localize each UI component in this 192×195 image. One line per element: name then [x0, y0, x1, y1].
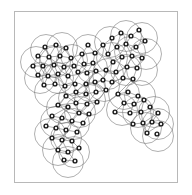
- network-node: [121, 100, 126, 105]
- network-node: [103, 67, 108, 72]
- network-node: [65, 104, 70, 109]
- network-node: [149, 119, 154, 124]
- network-node: [94, 99, 99, 104]
- network-node: [65, 73, 70, 78]
- network-node: [109, 35, 114, 40]
- network-node: [42, 44, 47, 49]
- network-node: [71, 63, 76, 68]
- network-node: [83, 91, 88, 96]
- network-node: [53, 42, 58, 47]
- network-node: [134, 65, 139, 70]
- network-node: [128, 33, 133, 38]
- network-node: [45, 73, 50, 78]
- network-node: [43, 123, 48, 128]
- network-node: [144, 130, 149, 135]
- network-diagram: [0, 0, 192, 195]
- network-node: [100, 42, 105, 47]
- network-node: [131, 101, 136, 106]
- network-node: [129, 53, 134, 58]
- network-node: [75, 69, 80, 74]
- network-node: [86, 111, 91, 116]
- network-node: [93, 89, 98, 94]
- network-node: [90, 60, 95, 65]
- network-node: [51, 62, 56, 67]
- network-node: [68, 55, 73, 60]
- network-node: [74, 129, 79, 134]
- network-node: [59, 115, 64, 120]
- network-node: [53, 125, 58, 130]
- network-node: [35, 53, 40, 58]
- network-node: [112, 109, 117, 114]
- network-node: [140, 120, 145, 125]
- network-node: [76, 110, 81, 115]
- network-node: [80, 120, 85, 125]
- network-node: [154, 131, 159, 136]
- network-node: [69, 138, 74, 143]
- network-node: [141, 97, 146, 102]
- network-node: [49, 113, 54, 118]
- network-node: [133, 44, 138, 49]
- network-node: [55, 71, 60, 76]
- network-node: [127, 110, 132, 115]
- network-node: [76, 145, 81, 150]
- network-node: [73, 89, 78, 94]
- network-node: [136, 27, 141, 32]
- network-node: [138, 109, 143, 114]
- network-node: [59, 137, 64, 142]
- network-node: [105, 51, 110, 56]
- network-node: [114, 44, 119, 49]
- network-node: [55, 102, 60, 107]
- figure-background: [0, 0, 192, 195]
- network-node: [118, 30, 123, 35]
- network-node: [69, 118, 74, 123]
- network-node: [30, 63, 35, 68]
- network-node: [109, 79, 114, 84]
- network-node: [84, 70, 89, 75]
- network-node: [139, 55, 144, 60]
- network-node: [83, 81, 88, 86]
- network-node: [41, 82, 46, 87]
- network-node: [92, 79, 97, 84]
- network-node: [119, 54, 124, 59]
- network-node: [61, 64, 66, 69]
- network-node: [73, 100, 78, 105]
- network-node: [124, 64, 129, 69]
- network-node: [135, 93, 140, 98]
- network-node: [142, 38, 147, 43]
- network-node: [130, 121, 135, 126]
- network-node: [79, 51, 84, 56]
- network-node: [81, 61, 86, 66]
- network-node: [72, 158, 77, 163]
- network-node: [147, 104, 152, 109]
- network-node: [84, 101, 89, 106]
- network-node: [57, 53, 62, 58]
- network-node: [49, 135, 54, 140]
- network-node: [120, 75, 125, 80]
- network-node: [63, 127, 68, 132]
- network-node: [40, 63, 45, 68]
- network-node: [65, 149, 70, 154]
- network-node: [93, 68, 98, 73]
- network-node: [85, 42, 90, 47]
- network-node: [100, 77, 105, 82]
- network-node: [72, 81, 77, 86]
- network-node: [92, 50, 97, 55]
- network-node: [63, 45, 68, 50]
- network-node: [55, 147, 60, 152]
- network-node: [103, 87, 108, 92]
- network-node: [155, 110, 160, 115]
- network-node: [35, 72, 40, 77]
- network-node: [115, 91, 120, 96]
- network-node: [110, 59, 115, 64]
- network-node: [130, 76, 135, 81]
- network-node: [52, 81, 57, 86]
- network-node: [61, 157, 66, 162]
- network-node: [125, 89, 130, 94]
- network-node: [62, 83, 67, 88]
- network-node: [46, 54, 51, 59]
- network-node: [158, 121, 163, 126]
- figure-canvas: [0, 0, 192, 195]
- network-node: [63, 93, 68, 98]
- network-node: [123, 41, 128, 46]
- network-node: [113, 69, 118, 74]
